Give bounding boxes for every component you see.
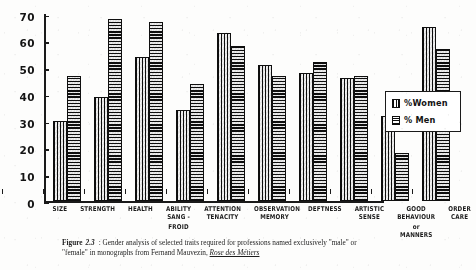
x-axis-label-line: ARTISTIC: [355, 205, 385, 214]
chart-legend: %Women % Men: [385, 91, 461, 132]
bar-groups: [46, 14, 372, 201]
y-axis-tick-50: 50: [19, 60, 44, 78]
x-axis-label-line: SIZE: [53, 205, 68, 214]
bar-women: [176, 110, 190, 201]
x-axis-tick-mark: [207, 189, 208, 194]
bar-group: [94, 14, 122, 201]
y-axis-tick-label: 20: [19, 144, 44, 156]
y-axis-tick-70: 70: [19, 7, 44, 25]
x-axis-label-line: MEMORY: [254, 214, 295, 223]
x-axis-label-line: ORDER: [448, 205, 471, 214]
caption-line-1: Figure2.3: Gender analysis of selected t…: [62, 238, 407, 248]
legend-swatch-men-icon: [392, 116, 400, 125]
x-axis-tick-mark: [166, 189, 167, 194]
caption-text-2: "female" in monographs from Fernand Mauv…: [62, 248, 208, 257]
x-axis-tick-mark: [125, 189, 126, 194]
bar-men: [149, 22, 163, 201]
bar-men: [67, 76, 81, 202]
x-axis-label-order-care: ORDERCARE: [448, 205, 471, 259]
x-axis-label-line: ATTENTION: [204, 205, 241, 214]
x-axis-label-line: TENACITY: [204, 214, 241, 223]
x-axis-label-line: ABILITY: [166, 205, 191, 214]
caption-figure-word: Figure: [62, 238, 83, 247]
bar-women: [340, 78, 354, 201]
caption-figure-number: 2.3: [83, 238, 99, 247]
x-axis-label-line: STRENGTH: [80, 205, 115, 214]
x-axis-label-line: DEFTNESS: [308, 205, 342, 214]
x-axis-label-line: HEALTH: [128, 205, 153, 214]
bar-group: [299, 14, 327, 201]
bar-men: [190, 84, 204, 202]
y-axis-tick-label: 70: [19, 11, 44, 23]
bar-men: [354, 76, 368, 202]
y-axis-tick-40: 40: [19, 87, 44, 105]
x-axis-tick-mark: [2, 189, 3, 194]
y-axis-tick-label: 50: [19, 64, 44, 76]
bar-group: [176, 14, 204, 201]
y-axis-tick-label: 40: [19, 91, 44, 103]
x-axis-label-line: BEHAVIOUR: [397, 214, 435, 223]
x-axis-label-line: or: [397, 222, 435, 231]
bar-men: [313, 62, 327, 201]
caption-text-1: : Gender analysis of selected traits req…: [99, 238, 357, 247]
x-axis-label-line: GOOD: [397, 205, 435, 214]
legend-item-men: % Men: [392, 115, 455, 125]
x-axis-label-line: SENSE: [355, 214, 385, 223]
x-axis-tick-mark: [412, 189, 413, 194]
bar-women: [135, 57, 149, 202]
bar-women: [258, 65, 272, 202]
bar-group: [53, 14, 81, 201]
bar-women: [299, 73, 313, 202]
y-axis-tick-label: 30: [19, 118, 44, 130]
y-axis-tick-label: 0: [27, 198, 44, 210]
x-axis-line: [44, 201, 384, 203]
x-axis-tick-marks: [2, 189, 342, 194]
x-axis-label-line: FROID: [166, 222, 191, 231]
figure-container: 010203040506070 SIZESTRENGTHHEALTHABILIT…: [0, 0, 476, 270]
y-axis-tick-label: 60: [19, 37, 44, 49]
figure-caption: Figure2.3: Gender analysis of selected t…: [62, 238, 407, 258]
x-axis-label-line: CARE: [448, 214, 471, 223]
x-axis-tick-mark: [289, 189, 290, 194]
x-axis-tick-mark: [248, 189, 249, 194]
y-axis-tick-0: 0: [27, 194, 44, 212]
bar-men: [395, 153, 409, 201]
x-axis-tick-mark: [371, 189, 372, 194]
bar-women: [217, 33, 231, 202]
bar-men: [231, 46, 245, 201]
x-axis-label-line: SANG -: [166, 214, 191, 223]
x-axis-tick-mark: [43, 189, 44, 194]
caption-line-2: "female" in monographs from Fernand Mauv…: [62, 248, 407, 258]
bar-women: [94, 97, 108, 201]
bar-group: [258, 14, 286, 201]
legend-item-women: %Women: [392, 98, 455, 108]
bar-men: [108, 19, 122, 201]
caption-reference-link[interactable]: Rose des Métiers: [210, 248, 260, 257]
legend-label-women: %Women: [404, 98, 448, 108]
chart-plot-area: 010203040506070: [44, 14, 372, 203]
y-axis-tick-label: 10: [19, 171, 44, 183]
legend-swatch-women-icon: [392, 99, 400, 108]
bar-men: [272, 76, 286, 202]
y-axis-tick-10: 10: [19, 167, 44, 185]
y-axis-tick-30: 30: [19, 114, 44, 132]
y-axis-tick-20: 20: [19, 140, 44, 158]
x-axis-tick-mark: [330, 189, 331, 194]
bar-group: [135, 14, 163, 201]
legend-label-men: % Men: [404, 115, 436, 125]
x-axis-label-line: OBSERVATION: [254, 205, 295, 214]
bar-group: [340, 14, 368, 201]
y-axis-tick-60: 60: [19, 33, 44, 51]
bar-group: [217, 14, 245, 201]
x-axis-tick-mark: [84, 189, 85, 194]
